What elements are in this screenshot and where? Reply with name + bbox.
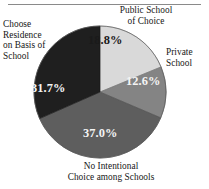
slice-value-private-school: 12.6% (126, 74, 161, 89)
slice-value-choose-residence: 31.7% (31, 81, 66, 96)
slice-label-public-school-of-choice: Public School of Choice (104, 5, 188, 26)
slice-label-choose-residence: Choose Residence on Basis of School (3, 19, 65, 61)
pie-chart-figure: Public School of Choice Private School C… (0, 0, 209, 189)
slice-label-private-school: Private School (166, 47, 209, 68)
slice-value-no-intentional-choice: 37.0% (83, 126, 118, 141)
slice-value-public-school-of-choice: 18.8% (88, 33, 123, 48)
slice-label-no-intentional-choice: No Intentional Choice among Schools (38, 161, 184, 182)
